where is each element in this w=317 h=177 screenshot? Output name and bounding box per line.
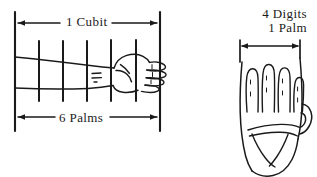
hand-outline	[113, 54, 150, 92]
palm-width-bracket	[240, 40, 300, 62]
right-panel-group	[240, 40, 312, 176]
cubit-measure-label: 1 Cubit	[64, 14, 109, 30]
palms-measure-label: 6 Palms	[57, 110, 105, 126]
hand-back-contour	[114, 54, 150, 68]
palm-finger-ring	[278, 68, 290, 112]
hand-fingers	[142, 62, 167, 92]
palm-crease-upper	[248, 124, 300, 130]
finger-crease-marks	[151, 65, 153, 84]
hand-bottom-contour	[252, 139, 298, 176]
palm-hand-outline	[240, 58, 302, 176]
palm-width-arrow	[241, 43, 299, 48]
palm-finger-middle	[262, 64, 274, 112]
hand-palm-edge	[113, 86, 138, 93]
wrist-crease-marks	[92, 73, 102, 82]
measurement-units-figure: 1 Cubit 6 Palms 4 Digits 1 Palm	[0, 0, 317, 177]
palm-crease-fate	[269, 135, 288, 167]
palm-finger-index	[246, 69, 258, 112]
palm-crease-heart	[250, 132, 298, 136]
palm-fingers	[246, 64, 304, 112]
palm-label: 1 Palm	[231, 20, 307, 36]
palm-crease-life	[252, 134, 275, 167]
forearm-upper-edge	[15, 57, 114, 68]
